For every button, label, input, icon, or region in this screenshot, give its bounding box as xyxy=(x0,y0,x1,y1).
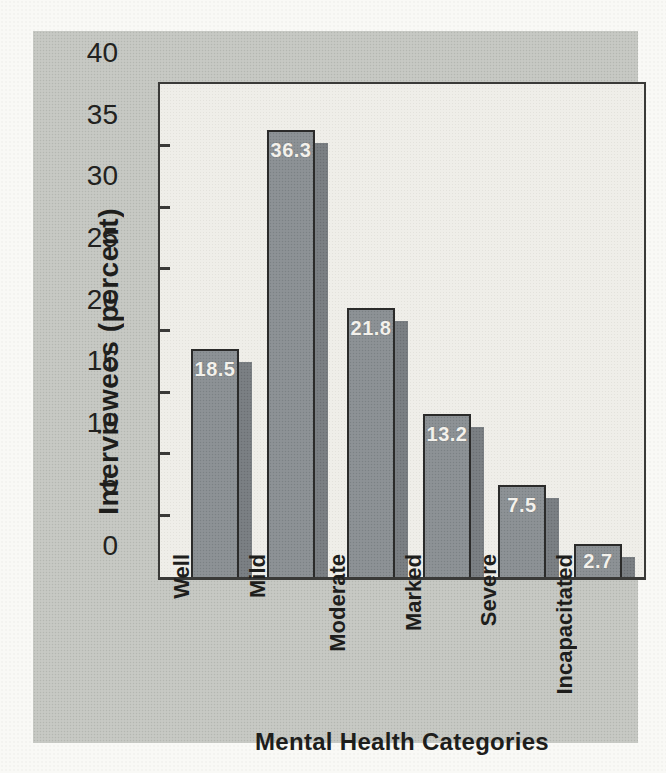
bar-value-label: 21.8 xyxy=(349,317,393,340)
bar-mild: 36.3 xyxy=(267,130,315,577)
y-tick-label: 30 xyxy=(56,161,118,191)
bar-value-label: 7.5 xyxy=(500,494,544,517)
bar-value-label: 13.2 xyxy=(425,423,469,446)
y-tick-mark xyxy=(160,206,170,209)
scanned-page: Interviewees (percent) 18.536.321.813.27… xyxy=(0,0,666,773)
x-tick-label-marked: Marked xyxy=(401,554,427,631)
plot-area: 18.536.321.813.27.52.7 xyxy=(158,82,646,580)
y-tick-mark xyxy=(160,329,170,332)
x-tick-label-incapacitated: Incapacitated xyxy=(552,554,578,695)
y-tick-label: 20 xyxy=(56,285,118,315)
x-tick-label-mild: Mild xyxy=(245,554,271,598)
y-tick-label: 10 xyxy=(56,408,118,438)
y-tick-mark xyxy=(160,514,170,517)
bar-moderate: 21.8 xyxy=(347,308,395,577)
bar-incapacitated: 2.7 xyxy=(574,544,622,577)
x-tick-label-moderate: Moderate xyxy=(325,554,351,652)
x-tick-label-well: Well xyxy=(169,554,195,599)
y-tick-label: 40 xyxy=(56,38,118,68)
y-tick-mark xyxy=(160,144,170,147)
bar-marked: 13.2 xyxy=(423,414,471,577)
bar-severe: 7.5 xyxy=(498,485,546,577)
bar-value-label: 18.5 xyxy=(193,358,237,381)
bar-value-label: 36.3 xyxy=(269,139,313,162)
y-tick-label: 5 xyxy=(56,469,118,499)
y-tick-label: 25 xyxy=(56,223,118,253)
figure-panel: Interviewees (percent) 18.536.321.813.27… xyxy=(33,31,638,743)
y-tick-mark xyxy=(160,452,170,455)
bar-value-label: 2.7 xyxy=(576,550,620,573)
y-tick-label: 0 xyxy=(56,531,118,561)
x-tick-label-severe: Severe xyxy=(476,554,502,626)
bar-well: 18.5 xyxy=(191,349,239,577)
y-tick-label: 15 xyxy=(56,346,118,376)
y-tick-label: 35 xyxy=(56,100,118,130)
y-tick-mark xyxy=(160,391,170,394)
x-axis-title: Mental Health Categories xyxy=(160,728,644,756)
y-tick-mark xyxy=(160,267,170,270)
